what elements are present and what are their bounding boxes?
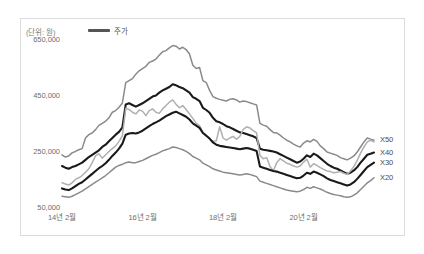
y-axis-tick: 650,000 xyxy=(33,35,60,44)
series-label-x20: X20 xyxy=(380,173,393,182)
legend-swatch-stock-price xyxy=(88,29,110,31)
series-line-x20 xyxy=(62,147,374,197)
chart-lines xyxy=(62,40,374,208)
y-axis-tick: 250,000 xyxy=(33,147,60,156)
chart-screenshot: (단위: 원) 주가 650,000450,000250,00050,000 1… xyxy=(0,0,424,254)
x-axis-tick: 20년 2월 xyxy=(290,211,318,222)
series-label-x50: X50 xyxy=(380,135,393,144)
chart-legend: 주가 xyxy=(88,25,128,36)
x-axis-tick: 18년 2월 xyxy=(209,211,237,222)
x-axis-tick: 16년 2월 xyxy=(129,211,157,222)
series-label-x30: X30 xyxy=(380,158,393,167)
plot-area xyxy=(62,40,374,208)
legend-label-stock-price: 주가 xyxy=(114,25,128,36)
y-axis-tick: 450,000 xyxy=(33,91,60,100)
series-label-x40: X40 xyxy=(380,148,393,157)
x-axis-tick: 14년 2월 xyxy=(48,211,76,222)
